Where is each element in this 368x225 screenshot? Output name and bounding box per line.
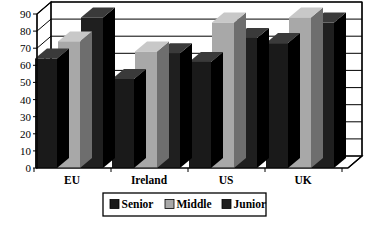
bar-us-senior xyxy=(189,52,223,168)
y-tick-label: 90 xyxy=(20,8,32,20)
chart-canvas: 90 80 70 60 50 40 30 20 10 0 EU Ireland … xyxy=(0,0,368,225)
legend-swatch-junior xyxy=(222,200,231,209)
legend-label-senior: Senior xyxy=(122,198,154,210)
chart-legend: Senior Middle Junior xyxy=(103,193,266,216)
y-tick-label: 40 xyxy=(20,94,32,106)
bar-uk-senior xyxy=(266,33,300,168)
legend-swatch-middle xyxy=(165,200,174,209)
bar-eu-senior xyxy=(35,49,69,169)
y-tick-label: 0 xyxy=(26,162,32,174)
legend-label-middle: Middle xyxy=(177,198,212,210)
legend-label-junior: Junior xyxy=(234,198,267,210)
y-tick-label: 10 xyxy=(20,145,32,157)
x-category-label: US xyxy=(219,174,234,186)
y-tick-label: 20 xyxy=(20,128,32,140)
y-tick-label: 80 xyxy=(20,25,32,37)
x-category-label: EU xyxy=(64,174,81,186)
y-tick-label: 60 xyxy=(20,59,32,71)
y-tick-label: 50 xyxy=(20,76,32,88)
x-category-label: UK xyxy=(294,174,311,186)
y-tick-label: 70 xyxy=(20,42,32,54)
bar-ireland-senior xyxy=(112,69,146,168)
x-category-label: Ireland xyxy=(131,174,168,186)
legend-swatch-senior xyxy=(110,200,119,209)
bar-chart-figure: 90 80 70 60 50 40 30 20 10 0 EU Ireland … xyxy=(0,0,368,225)
y-tick-label: 30 xyxy=(20,111,32,123)
